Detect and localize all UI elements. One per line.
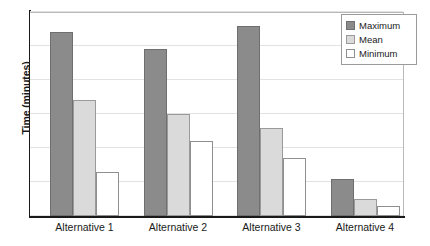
bar-maximum-alternative-2[interactable] [144,49,167,216]
x-tick-label: Alternative 1 [35,221,135,233]
legend-label: Minimum [359,48,398,59]
bar-group [237,13,306,216]
bar-mean-alternative-4[interactable] [354,199,377,216]
legend-swatch-icon [346,21,355,30]
bar-maximum-alternative-1[interactable] [50,32,73,216]
x-axis-spine [29,216,405,218]
bar-maximum-alternative-4[interactable] [331,179,354,216]
chart-legend: MaximumMeanMinimum [341,14,417,65]
x-tick-label: Alternative 4 [315,221,415,233]
bar-group [50,13,119,216]
legend-item-maximum[interactable]: Maximum [346,19,411,32]
legend-swatch-icon [346,35,355,44]
bar-minimum-alternative-3[interactable] [283,158,306,216]
bar-maximum-alternative-3[interactable] [237,26,260,216]
bar-mean-alternative-2[interactable] [167,114,190,216]
bar-mean-alternative-3[interactable] [260,128,283,216]
legend-item-mean[interactable]: Mean [346,33,411,46]
legend-label: Mean [359,34,383,45]
gridline [30,11,403,12]
legend-item-minimum[interactable]: Minimum [346,47,411,60]
bar-minimum-alternative-1[interactable] [96,172,119,216]
bar-minimum-alternative-2[interactable] [190,141,213,216]
bar-mean-alternative-1[interactable] [73,100,96,216]
legend-swatch-icon [346,49,355,58]
x-axis-tick-labels: Alternative 1Alternative 2Alternative 3A… [30,221,404,243]
x-tick-label: Alternative 2 [128,221,228,233]
x-tick-label: Alternative 3 [222,221,322,233]
bar-chart-figure: Time (minutes) Alternative 1Alternative … [0,0,430,246]
legend-label: Maximum [359,20,400,31]
bar-group [144,13,213,216]
bar-minimum-alternative-4[interactable] [377,206,400,216]
